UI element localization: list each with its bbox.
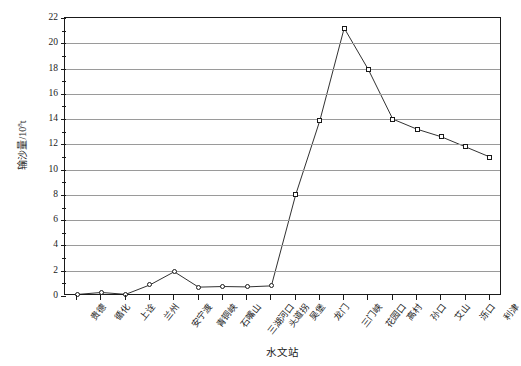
data-point-marker [390, 117, 395, 122]
x-tick [76, 295, 77, 300]
y-axis-title-exponent: 8 [16, 123, 24, 127]
x-axis-title: 水文站 [64, 344, 501, 359]
x-tick [295, 295, 296, 300]
y-tick-major [61, 195, 66, 196]
y-tick-minor [62, 31, 66, 32]
x-tick-label: 上诠 [138, 302, 157, 322]
x-tick-label: 吴堡 [308, 302, 327, 322]
data-point-marker [172, 269, 177, 274]
data-point-marker [196, 285, 201, 290]
y-tick-label: 8 [30, 189, 58, 199]
data-point-marker [415, 127, 420, 132]
y-tick-major [61, 296, 66, 297]
data-point-marker [463, 144, 468, 149]
y-axis-title-text: 输沙量/10 [17, 127, 28, 170]
x-tick [198, 295, 199, 300]
x-tick [246, 295, 247, 300]
y-tick-major [61, 170, 66, 171]
y-tick-label: 2 [30, 265, 58, 275]
x-tick-label: 石嘴山 [238, 302, 263, 329]
gridline [65, 69, 500, 70]
x-tick [222, 295, 223, 300]
gridline [65, 195, 500, 196]
y-tick-label: 10 [30, 164, 58, 174]
y-tick-major [61, 271, 66, 272]
y-tick-minor [62, 283, 66, 284]
y-tick-label: 18 [30, 63, 58, 73]
x-tick [270, 295, 271, 300]
x-tick [125, 295, 126, 300]
gridline [65, 170, 500, 171]
series-polyline [65, 18, 502, 296]
data-point-marker [317, 118, 322, 123]
x-tick-label: 龙门 [332, 302, 351, 322]
y-tick-label: 6 [30, 214, 58, 224]
y-tick-minor [62, 56, 66, 57]
gridline [65, 43, 500, 44]
x-tick-label: 三门峡 [360, 302, 385, 329]
y-tick-major [61, 18, 66, 19]
x-tick-label: 利津 [502, 302, 521, 322]
x-tick [100, 295, 101, 300]
x-tick-label: 泺口 [477, 302, 496, 322]
y-tick-label: 20 [30, 37, 58, 47]
gridline [65, 271, 500, 272]
y-tick-label: 12 [30, 138, 58, 148]
x-tick-label: 孙口 [429, 302, 448, 322]
y-tick-major [61, 43, 66, 44]
y-tick-label: 14 [30, 113, 58, 123]
y-tick-minor [62, 106, 66, 107]
y-tick-label: 0 [30, 290, 58, 300]
data-point-marker [293, 192, 298, 197]
y-tick-minor [62, 258, 66, 259]
y-axis-title: 输沙量/108t [14, 85, 29, 205]
y-tick-minor [62, 182, 66, 183]
x-tick-label: 贵德 [89, 302, 108, 322]
x-tick-label: 青铜峡 [214, 302, 239, 329]
gridline [65, 94, 500, 95]
data-point-marker [439, 134, 444, 139]
data-point-marker [366, 67, 371, 72]
x-tick [465, 295, 466, 300]
y-tick-major [61, 119, 66, 120]
y-tick-label: 16 [30, 88, 58, 98]
y-tick-minor [62, 157, 66, 158]
y-tick-label: 4 [30, 239, 58, 249]
x-tick [173, 295, 174, 300]
x-tick [319, 295, 320, 300]
x-tick [440, 295, 441, 300]
plot-area [64, 17, 501, 295]
y-tick-minor [62, 132, 66, 133]
x-tick [149, 295, 150, 300]
x-tick-label: 安宁渡 [190, 302, 215, 329]
y-tick-major [61, 220, 66, 221]
x-tick-label: 循化 [113, 302, 132, 322]
y-tick-label: 22 [30, 12, 58, 22]
x-tick-label: 兰州 [162, 302, 181, 322]
data-point-marker [487, 155, 492, 160]
y-axis-title-unit: t [17, 120, 28, 123]
y-tick-minor [62, 208, 66, 209]
x-tick [416, 295, 417, 300]
x-tick-label: 艾山 [453, 302, 472, 322]
y-tick-major [61, 245, 66, 246]
x-tick [367, 295, 368, 300]
data-point-marker [342, 26, 347, 31]
y-tick-minor [62, 81, 66, 82]
x-tick [343, 295, 344, 300]
gridline [65, 119, 500, 120]
x-tick-label: 高村 [405, 302, 424, 322]
gridline [65, 245, 500, 246]
y-tick-major [61, 94, 66, 95]
y-tick-minor [62, 233, 66, 234]
y-tick-major [61, 144, 66, 145]
x-tick [489, 295, 490, 300]
y-tick-major [61, 69, 66, 70]
x-tick [392, 295, 393, 300]
gridline [65, 144, 500, 145]
gridline [65, 220, 500, 221]
